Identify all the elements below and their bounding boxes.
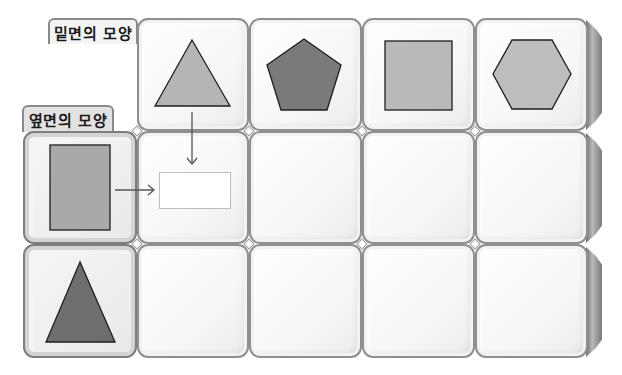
answer-input-box[interactable] <box>159 172 231 209</box>
right-arrow-icon <box>0 0 622 375</box>
